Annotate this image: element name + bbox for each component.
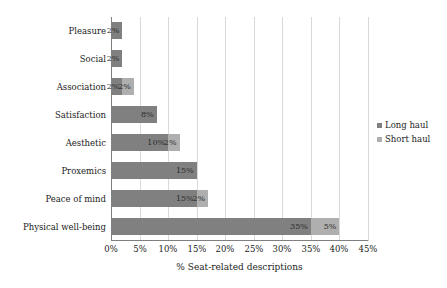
bar-row[interactable]: 15%2% xyxy=(111,190,368,207)
bar-segment-long-haul[interactable]: 35% xyxy=(111,218,311,235)
bar-value-label: 2% xyxy=(107,55,123,63)
bar-segment-long-haul[interactable]: 8% xyxy=(111,106,157,123)
bar-value-label: 5% xyxy=(324,223,340,231)
chart-legend: Long haulShort haul xyxy=(377,120,430,148)
bar-value-label: 15% xyxy=(176,167,197,175)
bar-segment-short-haul[interactable]: 2% xyxy=(122,78,133,95)
y-axis-category-label: Physical well-being xyxy=(23,223,106,232)
plot-area: 2%2%2%2%8%10%2%15%15%2%35%5% xyxy=(111,17,368,241)
y-axis-category-label: Social xyxy=(80,55,106,64)
x-axis-tick-label: 5% xyxy=(133,245,147,254)
x-axis-tick-label: 15% xyxy=(188,245,207,254)
bar-segment-long-haul[interactable]: 15% xyxy=(111,190,197,207)
x-axis-tick-label: 40% xyxy=(330,245,349,254)
bar-segment-short-haul[interactable]: 2% xyxy=(197,190,208,207)
x-axis-tick-label: 10% xyxy=(159,245,178,254)
x-axis-tick-label: 30% xyxy=(273,245,292,254)
x-axis-line xyxy=(111,240,368,241)
legend-label: Long haul xyxy=(385,120,428,130)
x-axis-tick-label: 0% xyxy=(104,245,118,254)
bar-segment-long-haul[interactable]: 2% xyxy=(111,50,122,67)
y-axis-category-label: Association xyxy=(57,83,106,92)
y-axis-category-label: Proxemics xyxy=(61,167,106,176)
bar-segment-short-haul[interactable]: 2% xyxy=(168,134,179,151)
bar-row[interactable]: 2% xyxy=(111,50,368,67)
bar-segment-long-haul[interactable]: 10% xyxy=(111,134,168,151)
legend-item[interactable]: Long haul xyxy=(377,120,430,130)
gridline xyxy=(368,17,369,241)
x-axis-tick-label: 45% xyxy=(359,245,378,254)
y-axis-category-label: Satisfaction xyxy=(55,111,106,120)
y-axis-category-label: Pleasure xyxy=(69,27,106,36)
bar-value-label: 2% xyxy=(192,195,208,203)
bar-segment-long-haul[interactable]: 2% xyxy=(111,22,122,39)
bar-row[interactable]: 2%2% xyxy=(111,78,368,95)
bar-value-label: 2% xyxy=(107,27,123,35)
legend-swatch-long-haul xyxy=(377,123,382,128)
bar-value-label: 8% xyxy=(141,111,157,119)
legend-item[interactable]: Short haul xyxy=(377,134,430,144)
legend-label: Short haul xyxy=(385,134,430,144)
x-axis-title: % Seat-related descriptions xyxy=(111,262,368,272)
x-axis-tick-label: 20% xyxy=(216,245,235,254)
y-axis-category-label: Peace of mind xyxy=(45,195,106,204)
x-axis-tick-label: 35% xyxy=(302,245,321,254)
bar-row[interactable]: 2% xyxy=(111,22,368,39)
bar-row[interactable]: 10%2% xyxy=(111,134,368,151)
bar-value-label: 2% xyxy=(164,139,180,147)
bar-chart: 2%2%2%2%8%10%2%15%15%2%35%5% PleasureSoc… xyxy=(0,0,447,288)
bar-row[interactable]: 8% xyxy=(111,106,368,123)
bar-value-label: 35% xyxy=(290,223,311,231)
bar-segment-long-haul[interactable]: 15% xyxy=(111,162,197,179)
bar-row[interactable]: 15% xyxy=(111,162,368,179)
legend-swatch-short-haul xyxy=(377,137,382,142)
x-axis-tick-label: 25% xyxy=(245,245,264,254)
bar-segment-short-haul[interactable]: 5% xyxy=(311,218,340,235)
bar-value-label: 2% xyxy=(118,83,134,91)
y-axis-category-label: Aesthetic xyxy=(66,139,106,148)
bar-row[interactable]: 35%5% xyxy=(111,218,368,235)
